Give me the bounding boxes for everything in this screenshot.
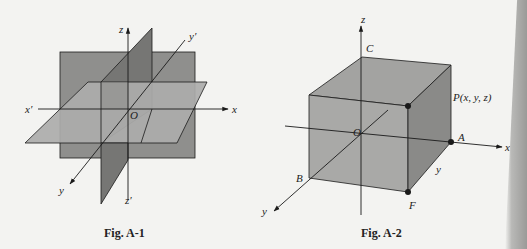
- label-origin-2: O: [353, 126, 361, 138]
- caption-fig-a2: Fig. A-2: [361, 226, 402, 240]
- label-a: A: [457, 131, 465, 143]
- yz-plane-mid: [101, 82, 128, 109]
- label-z: z: [118, 23, 124, 35]
- label-y-2: y: [261, 205, 267, 217]
- label-x-prime: x′: [24, 103, 33, 115]
- caption-fig-a1: Fig. A-1: [104, 226, 145, 240]
- figures-canvas: z y′ x′ x O y z′ Fig. A-1 z C P(x, y, z)…: [0, 0, 527, 249]
- label-c: C: [366, 42, 374, 54]
- point-p: [405, 103, 411, 109]
- figure-a1: z y′ x′ x O y z′ Fig. A-1: [24, 23, 237, 240]
- figure-a2: z C P(x, y, z) O A x y B F y Fig. A-2: [261, 13, 510, 240]
- label-z-prime: z′: [124, 194, 132, 206]
- label-x-2: x: [504, 141, 510, 153]
- label-y-prime: y′: [188, 30, 197, 42]
- box-front-face: [309, 95, 408, 192]
- label-y: y: [58, 184, 64, 196]
- label-z-2: z: [360, 13, 366, 25]
- point-f: [405, 189, 411, 195]
- label-y-edge: y: [435, 163, 441, 175]
- label-x: x: [231, 103, 237, 115]
- label-p: P(x, y, z): [452, 91, 492, 104]
- label-b: B: [296, 172, 303, 184]
- yz-plane-lower: [101, 143, 128, 204]
- label-f: F: [408, 199, 416, 211]
- label-origin: O: [130, 109, 138, 121]
- point-a: [448, 139, 454, 145]
